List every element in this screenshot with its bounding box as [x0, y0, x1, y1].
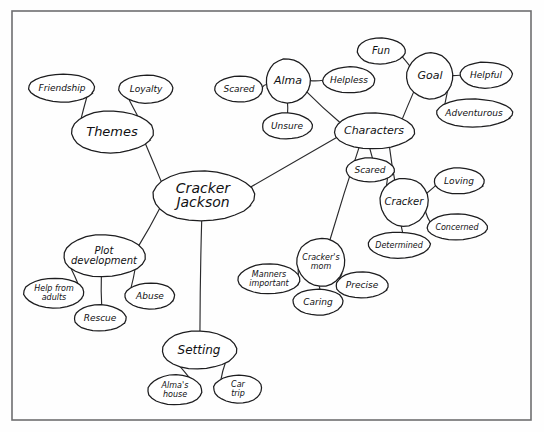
node-shape-setting	[163, 331, 237, 369]
node-shape-scared_cracker	[346, 158, 394, 182]
concept-map-canvas: CrackerJacksonThemesFriendshipLoyaltyPlo…	[0, 0, 544, 432]
node-shape-caring	[293, 289, 343, 315]
node-helpful[interactable]: Helpful	[460, 62, 512, 88]
node-shape-car_trip	[214, 375, 262, 403]
node-unsure[interactable]: Unsure	[263, 113, 313, 139]
edge-characters-to-goal	[403, 92, 414, 118]
node-shape-plot_development	[64, 235, 145, 277]
edge-characters-to-alma	[307, 92, 339, 122]
node-caring[interactable]: Caring	[293, 289, 343, 315]
node-fun[interactable]: Fun	[357, 38, 405, 64]
node-shape-cracker	[380, 179, 428, 227]
node-shape-fun	[357, 38, 405, 64]
node-setting[interactable]: Setting	[163, 331, 237, 369]
node-shape-almas_house	[148, 375, 202, 405]
edge-alma-to-helpless	[310, 80, 323, 81]
edge-characters-to-scared_cracker	[370, 149, 373, 158]
node-crackers_mom[interactable]: Cracker'smom	[297, 238, 345, 286]
node-shape-unsure	[263, 113, 313, 139]
node-adventurous[interactable]: Adventurous	[437, 99, 513, 127]
node-shape-scared_alma	[215, 76, 263, 102]
node-determined[interactable]: Determined	[368, 232, 430, 258]
node-help_from_adults[interactable]: Help fromadults	[24, 278, 84, 308]
edge-alma-to-scared_alma	[263, 85, 267, 87]
node-shape-abuse	[125, 283, 175, 309]
node-cracker[interactable]: Cracker	[380, 179, 428, 227]
edge-goal-to-fun	[402, 57, 409, 66]
edge-cracker_jackson-to-characters	[251, 137, 337, 187]
node-shape-themes	[72, 111, 154, 153]
node-car_trip[interactable]: Cartrip	[214, 375, 262, 403]
node-alma[interactable]: Alma	[266, 59, 310, 103]
node-shape-concerned	[427, 214, 487, 240]
node-helpless[interactable]: Helpless	[323, 67, 375, 93]
node-shape-manners_important	[238, 264, 300, 294]
node-shape-loving	[434, 168, 484, 194]
node-goal[interactable]: Goal	[407, 53, 453, 99]
node-manners_important[interactable]: Mannersimportant	[238, 264, 300, 294]
concept-map-page: CrackerJacksonThemesFriendshipLoyaltyPlo…	[0, 0, 544, 432]
edge-cracker_jackson-to-plot_development	[139, 209, 159, 245]
edge-cracker_jackson-to-themes	[146, 144, 162, 182]
node-shape-friendship	[29, 74, 95, 102]
node-loving[interactable]: Loving	[434, 168, 484, 194]
node-shape-precise	[336, 272, 388, 298]
edge-plot_development-to-abuse	[131, 270, 135, 288]
node-shape-cracker_jackson	[153, 171, 255, 221]
node-shape-determined	[368, 232, 430, 258]
node-layer: CrackerJacksonThemesFriendshipLoyaltyPlo…	[24, 38, 513, 405]
node-scared_cracker[interactable]: Scared	[346, 158, 394, 182]
node-cracker_jackson[interactable]: CrackerJackson	[153, 171, 255, 221]
node-shape-alma	[266, 59, 310, 103]
node-shape-rescue	[75, 305, 127, 331]
node-loyalty[interactable]: Loyalty	[119, 75, 173, 103]
node-scared_alma[interactable]: Scared	[215, 76, 263, 102]
node-shape-helpful	[460, 62, 512, 88]
node-rescue[interactable]: Rescue	[75, 305, 127, 331]
node-shape-goal	[407, 53, 453, 99]
edge-setting-to-car_trip	[221, 363, 225, 379]
node-concerned[interactable]: Concerned	[427, 214, 487, 240]
edge-cracker-to-loving	[426, 186, 435, 194]
node-almas_house[interactable]: Alma'shouse	[148, 375, 202, 405]
node-plot_development[interactable]: Plotdevelopment	[64, 235, 145, 277]
node-shape-helpless	[323, 67, 375, 93]
node-shape-loyalty	[119, 75, 173, 103]
node-shape-adventurous	[437, 99, 513, 127]
node-abuse[interactable]: Abuse	[125, 283, 175, 309]
node-friendship[interactable]: Friendship	[29, 74, 95, 102]
edge-cracker-to-concerned	[426, 212, 430, 221]
node-precise[interactable]: Precise	[336, 272, 388, 298]
node-shape-crackers_mom	[297, 238, 345, 286]
node-shape-help_from_adults	[24, 278, 84, 308]
edge-cracker_jackson-to-setting	[200, 221, 202, 331]
node-themes[interactable]: Themes	[72, 111, 154, 153]
